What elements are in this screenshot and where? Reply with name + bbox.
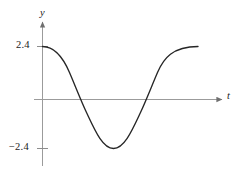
y-axis-label: y [40,7,45,18]
y-tick-label-positive: 2.4 [16,39,30,50]
cosine-curve [43,47,199,149]
y-tick-label-negative: −2.4 [9,141,29,152]
t-axis-label: t [227,90,230,101]
plot-svg [0,0,239,173]
figure-canvas: y t 2.4 −2.4 [0,0,239,173]
